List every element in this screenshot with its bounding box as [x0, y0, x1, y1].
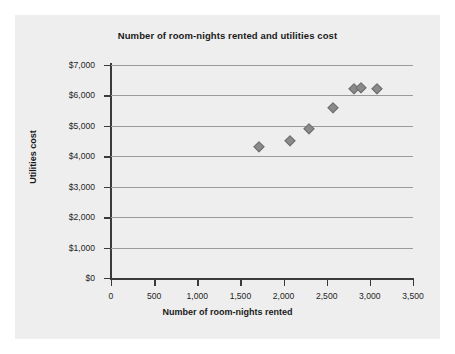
gridline [111, 95, 413, 96]
x-axis-title: Number of room-nights rented [15, 307, 440, 317]
gridline [111, 187, 413, 188]
x-axis-tick [284, 279, 285, 286]
y-axis-tick-label: $4,000 [23, 151, 95, 161]
gridline [111, 126, 413, 127]
x-axis-line [110, 278, 414, 280]
x-axis-tick-label: 3,500 [383, 291, 443, 301]
x-axis-tick [327, 279, 328, 286]
gridline [111, 156, 413, 157]
y-axis-tick-label: $0 [23, 273, 95, 283]
y-axis-tick [104, 65, 111, 66]
data-point [254, 141, 266, 153]
data-point [327, 102, 339, 114]
y-axis-tick [104, 278, 111, 279]
data-point [355, 82, 367, 94]
gridline [111, 217, 413, 218]
plot-area [111, 65, 413, 278]
y-axis-tick-label: $7,000 [23, 60, 95, 70]
y-axis-tick-label: $5,000 [23, 121, 95, 131]
data-point [303, 123, 315, 135]
y-axis-tick-label: $3,000 [23, 182, 95, 192]
chart-figure: Number of room-nights rented and utiliti… [15, 15, 440, 339]
x-axis-tick [370, 279, 371, 286]
x-axis-tick [413, 279, 414, 286]
data-point [284, 135, 296, 147]
y-axis-tick-label: $6,000 [23, 90, 95, 100]
gridline [111, 65, 413, 66]
x-axis-tick [197, 279, 198, 286]
x-axis-tick [154, 279, 155, 286]
y-axis-tick [104, 248, 111, 249]
y-axis-tick-label: $2,000 [23, 212, 95, 222]
gridline [111, 248, 413, 249]
data-point [371, 84, 383, 96]
x-axis-tick [240, 279, 241, 286]
y-axis-tick [104, 95, 111, 96]
y-axis-tick [104, 156, 111, 157]
y-axis-tick [104, 217, 111, 218]
y-axis-tick [104, 187, 111, 188]
y-axis-tick-label: $1,000 [23, 243, 95, 253]
chart-title: Number of room-nights rented and utiliti… [15, 30, 440, 41]
x-axis-tick [111, 279, 112, 286]
y-axis-tick [104, 126, 111, 127]
